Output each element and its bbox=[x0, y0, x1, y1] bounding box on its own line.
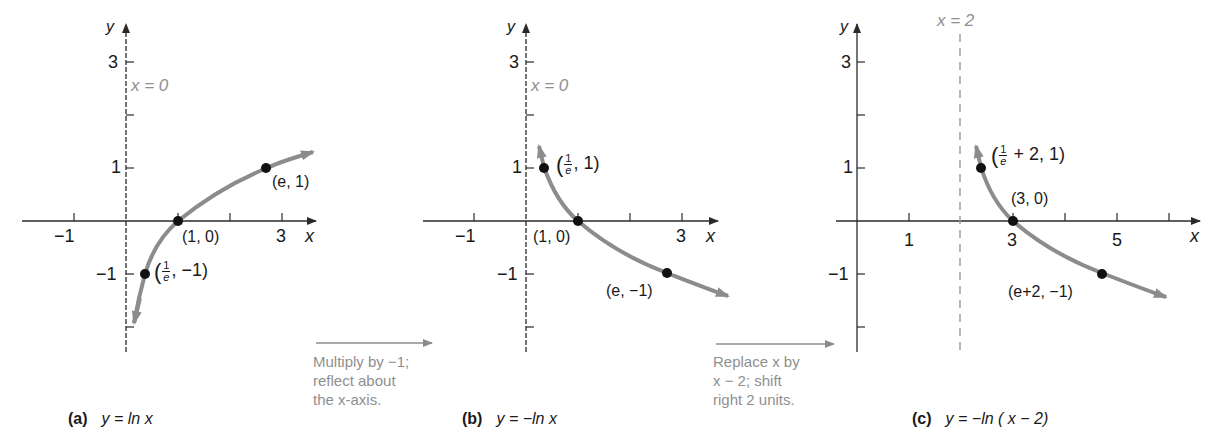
fraction-1-over-e: 1e bbox=[162, 260, 170, 283]
asymptote-label: x = 0 bbox=[131, 77, 168, 95]
y-tick-3: 3 bbox=[841, 53, 851, 71]
x-tick-3: 3 bbox=[276, 227, 286, 245]
point-3-0 bbox=[1008, 216, 1018, 226]
point-e-1 bbox=[261, 163, 271, 173]
x-axis-label: x bbox=[706, 227, 715, 245]
y-tick-1: 1 bbox=[512, 158, 522, 176]
caption-a: (a)y = ln x bbox=[68, 410, 153, 428]
caption-b: (b)y = −ln x bbox=[462, 410, 557, 428]
x-tick-neg1: −1 bbox=[455, 227, 476, 245]
transition-note-reflect: Multiply by −1; reflect about the x-axis… bbox=[313, 352, 409, 409]
curve-neg-ln-x bbox=[544, 167, 728, 296]
y-tick-neg1: −1 bbox=[497, 265, 518, 283]
point-1-over-e-plus-2 bbox=[976, 163, 986, 173]
point-1-over-e bbox=[539, 163, 549, 173]
figure-canvas bbox=[0, 0, 1212, 434]
y-axis-label: y bbox=[106, 18, 114, 36]
asymptote-label: x = 0 bbox=[531, 77, 568, 95]
x-tick-3: 3 bbox=[1007, 231, 1017, 249]
point-label-1-0: (1, 0) bbox=[182, 228, 219, 246]
point-1-over-e bbox=[140, 269, 150, 279]
y-tick-neg1: −1 bbox=[96, 265, 117, 283]
transition-note-shift: Replace x by x − 2; shift right 2 units. bbox=[713, 352, 800, 409]
point-e-plus-2-neg1 bbox=[1097, 269, 1107, 279]
point-label-e-neg1: (e, −1) bbox=[606, 282, 653, 300]
y-tick-neg1: −1 bbox=[828, 265, 849, 283]
point-label-e-plus-2-neg1: (e+2, −1) bbox=[1008, 283, 1073, 301]
fraction-1-over-e: 1e bbox=[564, 153, 572, 176]
point-label-e-1: (e, 1) bbox=[272, 173, 309, 191]
x-tick-neg1: −1 bbox=[54, 227, 75, 245]
x-tick-1: 1 bbox=[904, 231, 914, 249]
fraction-1-over-e: 1e bbox=[999, 144, 1007, 167]
y-axis-label: y bbox=[840, 18, 848, 36]
point-1-0 bbox=[173, 216, 183, 226]
point-label-3-0: (3, 0) bbox=[1011, 190, 1048, 208]
panel-b-plot bbox=[423, 24, 728, 352]
point-1-0 bbox=[573, 216, 583, 226]
y-tick-1: 1 bbox=[111, 158, 121, 176]
point-label-1-over-e-plus-2-1: (1e + 2, 1) bbox=[991, 144, 1065, 167]
caption-c: (c)y = −ln ( x − 2) bbox=[912, 410, 1048, 428]
x-axis-label: x bbox=[1190, 227, 1199, 245]
y-tick-1: 1 bbox=[843, 158, 853, 176]
point-e-neg1 bbox=[662, 268, 672, 278]
y-tick-3: 3 bbox=[108, 53, 118, 71]
point-label-1-over-e-1: (1e, 1) bbox=[556, 153, 599, 176]
x-tick-3: 3 bbox=[676, 227, 686, 245]
tick-marks bbox=[74, 62, 282, 327]
point-label-1-over-e-neg1: (1e, −1) bbox=[154, 260, 208, 283]
x-axis-label: x bbox=[305, 227, 314, 245]
y-axis-label: y bbox=[507, 18, 515, 36]
y-tick-3: 3 bbox=[509, 53, 519, 71]
x-tick-5: 5 bbox=[1112, 231, 1122, 249]
asymptote-label: x = 2 bbox=[937, 12, 974, 30]
point-label-1-0: (1, 0) bbox=[533, 228, 570, 246]
